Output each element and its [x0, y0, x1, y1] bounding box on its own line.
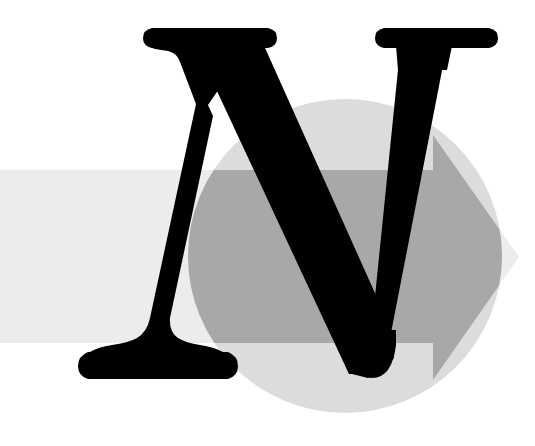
- logo-artwork: [0, 0, 535, 446]
- logo-canvas: Black serif capital letter N overlapping…: [0, 0, 535, 446]
